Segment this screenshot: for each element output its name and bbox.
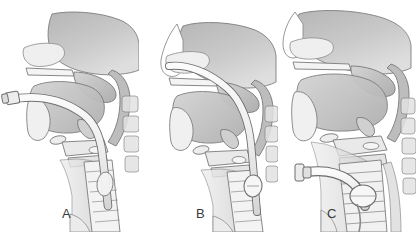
panel-a-illustration <box>0 0 139 232</box>
panel-b-illustration <box>139 0 278 232</box>
airway-management-figure: A <box>0 0 416 232</box>
tube-flange <box>295 164 311 181</box>
vocal-cords <box>363 143 379 150</box>
panel-a: A <box>0 0 139 232</box>
panel-b: B <box>139 0 278 232</box>
cervical-vertebrae <box>401 98 416 194</box>
panel-a-label: A <box>62 206 71 221</box>
panel-b-label: B <box>196 206 205 221</box>
nasal-cavity <box>290 38 334 59</box>
panel-c: C <box>277 0 416 232</box>
panel-c-label: C <box>327 206 337 221</box>
vocal-cords <box>232 157 246 164</box>
tube-connector <box>1 91 20 105</box>
panel-c-illustration <box>277 0 416 232</box>
